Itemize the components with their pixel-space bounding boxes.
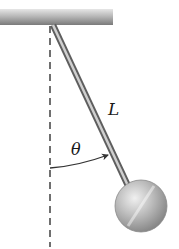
length-label: L	[107, 99, 119, 119]
pendulum-bob	[115, 180, 167, 232]
pendulum-diagram: L θ	[0, 0, 179, 249]
angle-label: θ	[71, 140, 81, 159]
ceiling-support	[0, 9, 113, 25]
